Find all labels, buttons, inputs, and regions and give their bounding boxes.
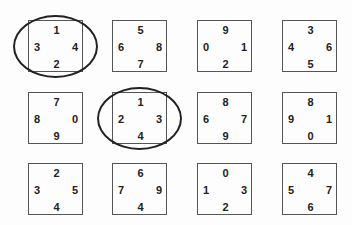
digit-top: 5 — [137, 25, 143, 36]
digit-top: 2 — [53, 168, 59, 179]
digit-bottom: 5 — [307, 59, 313, 70]
digit-right: 9 — [156, 185, 162, 196]
number-box: 4576 — [282, 163, 337, 215]
digit-right: 7 — [326, 185, 332, 196]
digit-bottom: 2 — [222, 202, 228, 213]
digit-top: 8 — [307, 97, 313, 108]
digit-bottom: 9 — [53, 131, 59, 142]
digit-top: 8 — [222, 97, 228, 108]
digit-right: 6 — [326, 42, 332, 53]
digit-left: 4 — [288, 42, 294, 53]
number-box: 5687 — [112, 20, 167, 72]
number-box: 9012 — [197, 20, 252, 72]
number-box: 7809 — [28, 92, 83, 144]
digit-right: 1 — [326, 114, 332, 125]
digit-right: 3 — [241, 185, 247, 196]
digit-bottom: 6 — [307, 202, 313, 213]
digit-bottom: 0 — [307, 131, 313, 142]
digit-bottom: 2 — [222, 59, 228, 70]
digit-top: 4 — [307, 168, 313, 179]
highlight-ellipse — [13, 15, 98, 78]
digit-left: 5 — [288, 185, 294, 196]
number-box: 0132 — [197, 163, 252, 215]
number-box: 8679 — [197, 92, 252, 144]
digit-right: 5 — [72, 185, 78, 196]
digit-bottom: 9 — [222, 131, 228, 142]
number-box: 2354 — [28, 163, 83, 215]
digit-left: 7 — [118, 185, 124, 196]
digit-left: 3 — [34, 185, 40, 196]
digit-left: 9 — [288, 114, 294, 125]
digit-top: 9 — [222, 25, 228, 36]
digit-bottom: 7 — [137, 59, 143, 70]
digit-right: 0 — [72, 114, 78, 125]
digit-left: 0 — [203, 42, 209, 53]
digit-top: 7 — [53, 97, 59, 108]
digit-right: 7 — [241, 114, 247, 125]
digit-top: 0 — [222, 168, 228, 179]
digit-right: 1 — [241, 42, 247, 53]
number-box: 6794 — [112, 163, 167, 215]
digit-right: 8 — [156, 42, 162, 53]
highlight-ellipse — [97, 87, 182, 150]
digit-left: 1 — [203, 185, 209, 196]
digit-bottom: 4 — [137, 202, 143, 213]
digit-bottom: 4 — [53, 202, 59, 213]
number-box: 8910 — [282, 92, 337, 144]
digit-left: 6 — [118, 42, 124, 53]
digit-top: 6 — [137, 168, 143, 179]
digit-left: 8 — [34, 114, 40, 125]
number-box: 3465 — [282, 20, 337, 72]
digit-left: 6 — [203, 114, 209, 125]
digit-top: 3 — [307, 25, 313, 36]
